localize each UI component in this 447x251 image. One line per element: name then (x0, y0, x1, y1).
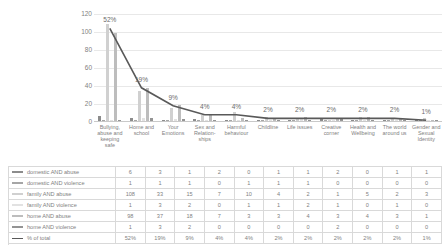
legend-swatch-icon (12, 215, 23, 217)
bar (233, 112, 236, 121)
table-cell: 15 (175, 189, 205, 200)
table-cell: 1 (264, 167, 294, 178)
data-label: 1% (421, 109, 430, 116)
table-row: family AND violence13201121010 (9, 200, 442, 211)
data-label: 2% (295, 107, 304, 114)
table-cell: 2% (382, 233, 412, 244)
table-cell: 18 (175, 211, 205, 222)
table-cell: 2 (323, 222, 353, 233)
chart-page: 020406080100120 52%19%9%4%4%2%2%2%2%2%1%… (0, 0, 447, 251)
table-row: % of total52%19%9%4%4%2%2%2%2%2%1% (9, 233, 442, 244)
legend-swatch-cell (9, 189, 25, 200)
data-label: 2% (263, 107, 272, 114)
table-cell: 0 (353, 200, 383, 211)
x-axis-category-labels: Bullying, abuse and keeping safeHome and… (94, 124, 442, 166)
table-cell: 0 (204, 178, 234, 189)
table-cell: 3 (264, 211, 294, 222)
data-label: 19% (135, 77, 148, 84)
bar (114, 33, 117, 121)
table-cell: 3 (234, 211, 264, 222)
table-cell: 1 (412, 167, 442, 178)
table-row-label: family AND violence (25, 200, 116, 211)
x-axis-label: Your Emotions (157, 124, 189, 166)
x-axis-label: The world around us (379, 124, 411, 166)
legend-swatch-icon (12, 193, 23, 195)
table-row: home AND violence13200002000 (9, 222, 442, 233)
bar-cluster (157, 14, 189, 121)
table-cell: 2% (264, 233, 294, 244)
x-axis-label: Childline (252, 124, 284, 166)
y-axis-tick-label: 80 (85, 47, 92, 54)
table-cell: 1 (323, 200, 353, 211)
data-label: 2% (390, 107, 399, 114)
table-cell: 1 (175, 167, 205, 178)
data-label: 9% (168, 95, 177, 102)
legend-swatch-cell (9, 211, 25, 222)
table-cell: 4 (293, 211, 323, 222)
y-axis: 020406080100120 (70, 14, 92, 122)
table-cell: 4% (204, 233, 234, 244)
table-cell: 7 (204, 189, 234, 200)
data-label: 4% (232, 104, 241, 111)
table-cell: 0 (382, 222, 412, 233)
x-axis-label: Health and Wellbeing (347, 124, 379, 166)
bar-cluster (94, 14, 126, 121)
table-cell: 33 (145, 189, 175, 200)
table-cell: 3 (412, 189, 442, 200)
table-cell: 10 (234, 189, 264, 200)
table-cell: 4 (353, 211, 383, 222)
table-cell: 2 (382, 189, 412, 200)
table-row-label: domestic AND abuse (25, 167, 116, 178)
bar (146, 88, 149, 121)
bar-cluster (315, 14, 347, 121)
table-row-label: domestic AND violence (25, 178, 116, 189)
table-cell: 2 (293, 200, 323, 211)
table-cell: 0 (353, 222, 383, 233)
table-cell: 0 (264, 222, 294, 233)
table-cell: 1 (382, 167, 412, 178)
table-cell: 0 (234, 167, 264, 178)
table-cell: 3 (145, 200, 175, 211)
table-cell: 1 (175, 178, 205, 189)
table-row: family AND abuse1083315710421523 (9, 189, 442, 200)
table-cell: 2 (323, 167, 353, 178)
table-cell: 0 (323, 178, 353, 189)
x-axis-label: Gender and Sexual Identity (410, 124, 442, 166)
table-cell: 2 (293, 189, 323, 200)
table-cell: 2% (323, 233, 353, 244)
legend-swatch-icon (12, 171, 23, 173)
data-label: 4% (200, 104, 209, 111)
table-cell: 3 (145, 167, 175, 178)
table-cell: 6 (116, 167, 146, 178)
table-cell: 1 (293, 178, 323, 189)
table-cell: 0 (204, 200, 234, 211)
table-cell: 3 (382, 211, 412, 222)
table-row-label: home AND abuse (25, 211, 116, 222)
table-cell: 2% (353, 233, 383, 244)
x-axis-label: Home and school (126, 124, 158, 166)
bar-cluster (347, 14, 379, 121)
table-cell: 52% (116, 233, 146, 244)
table-cell: 2 (204, 167, 234, 178)
table-cell: 1 (323, 189, 353, 200)
bar-clusters (94, 14, 442, 121)
table-cell: 1 (234, 200, 264, 211)
bar (106, 24, 109, 121)
table-cell: 1 (145, 178, 175, 189)
table-cell: 0 (412, 222, 442, 233)
legend-swatch-icon (12, 238, 23, 240)
table-cell: 0 (412, 178, 442, 189)
table-cell: 0 (353, 167, 383, 178)
table-cell: 108 (116, 189, 146, 200)
table-cell: 3 (323, 211, 353, 222)
table-cell: 0 (234, 222, 264, 233)
table-row-label: % of total (25, 233, 116, 244)
legend-swatch-cell (9, 233, 25, 244)
legend-swatch-cell (9, 200, 25, 211)
table-cell: 1% (412, 233, 442, 244)
table-cell: 9% (175, 233, 205, 244)
bar (138, 91, 141, 121)
table-cell: 1 (116, 178, 146, 189)
table-cell: 0 (412, 200, 442, 211)
table-row-label: family AND abuse (25, 189, 116, 200)
